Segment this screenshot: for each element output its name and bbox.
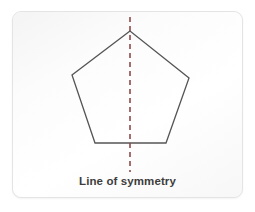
- figure-root: Line of symmetry: [0, 0, 255, 212]
- caption-line-of-symmetry: Line of symmetry: [12, 175, 243, 187]
